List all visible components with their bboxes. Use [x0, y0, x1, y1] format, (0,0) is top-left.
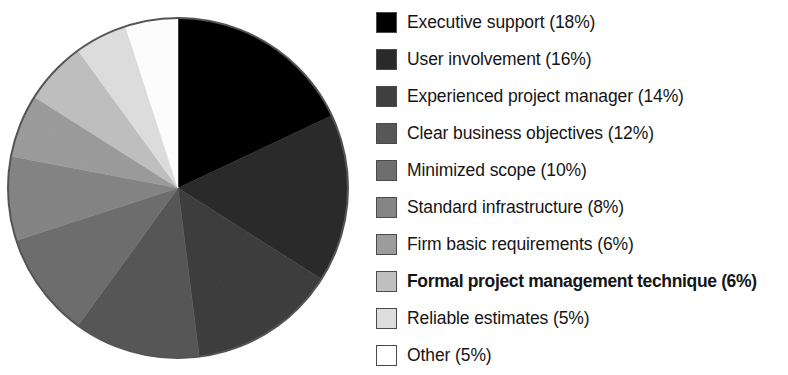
legend-swatch: [376, 86, 397, 107]
legend-item[interactable]: Standard infrastructure (8%): [374, 189, 624, 226]
legend-swatch: [376, 308, 397, 329]
pie-chart-figure: Executive support (18%)User involvement …: [0, 0, 788, 375]
legend-item[interactable]: Firm basic requirements (6%): [374, 226, 634, 263]
pie-panel: [0, 0, 370, 375]
legend-swatch: [376, 234, 397, 255]
legend-item[interactable]: Executive support (18%): [374, 4, 595, 41]
legend-label: User involvement (16%): [407, 50, 592, 69]
legend-swatch: [376, 160, 397, 181]
legend-label: Standard infrastructure (8%): [407, 198, 624, 217]
legend-item[interactable]: Minimized scope (10%): [374, 152, 587, 189]
legend-label: Firm basic requirements (6%): [407, 235, 634, 254]
legend-item[interactable]: User involvement (16%): [374, 41, 592, 78]
legend-item[interactable]: Formal project management technique (6%): [374, 263, 757, 300]
pie-chart-graphic: [0, 0, 370, 375]
legend-label: Formal project management technique (6%): [407, 272, 757, 291]
legend-swatch: [376, 197, 397, 218]
legend-swatch: [376, 123, 397, 144]
legend-item[interactable]: Other (5%): [374, 337, 492, 374]
legend-swatch: [376, 12, 397, 33]
legend-swatch: [376, 271, 397, 292]
pie-slices-group: [8, 18, 348, 358]
legend-item[interactable]: Experienced project manager (14%): [374, 78, 684, 115]
legend-label: Reliable estimates (5%): [407, 309, 590, 328]
legend-label: Minimized scope (10%): [407, 161, 587, 180]
legend-item[interactable]: Reliable estimates (5%): [374, 300, 590, 337]
legend-swatch: [376, 345, 397, 366]
legend-swatch: [376, 49, 397, 70]
legend-item[interactable]: Clear business objectives (12%): [374, 115, 654, 152]
legend-label: Other (5%): [407, 346, 492, 365]
legend-label: Clear business objectives (12%): [407, 124, 654, 143]
legend-label: Executive support (18%): [407, 13, 595, 32]
legend-label: Experienced project manager (14%): [407, 87, 684, 106]
legend: Executive support (18%)User involvement …: [374, 0, 788, 375]
